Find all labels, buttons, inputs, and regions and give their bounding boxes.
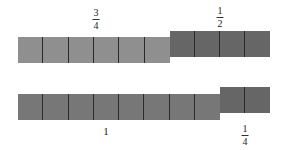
bar-cell (43, 37, 68, 63)
bar-cell (69, 37, 94, 63)
bar-cell (43, 94, 68, 120)
denominator: 4 (243, 137, 248, 147)
bar-cell (195, 94, 220, 120)
bar-cell (18, 94, 43, 120)
top-dark-bar (170, 31, 270, 57)
bar-cell (119, 94, 144, 120)
numerator: 3 (94, 8, 99, 18)
bottom-dark-bar (220, 87, 270, 113)
bar-cell (245, 87, 270, 113)
top-light-bar (18, 37, 170, 63)
bar-cell (170, 94, 195, 120)
bar-cell (94, 94, 119, 120)
bottom-main-bar (18, 94, 220, 120)
label-one: 1 (103, 125, 109, 137)
bar-cell (245, 31, 270, 57)
bar-cell (119, 37, 144, 63)
denominator: 2 (218, 19, 223, 29)
fraction-one-quarter: 1 4 (242, 124, 249, 147)
bar-cell (195, 31, 220, 57)
numerator: 1 (243, 124, 248, 134)
bar-cell (170, 31, 195, 57)
bar-cell (94, 37, 119, 63)
numerator: 1 (218, 6, 223, 16)
bar-cell (220, 87, 245, 113)
fraction-three-quarters: 3 4 (93, 8, 100, 31)
fraction-one-half: 1 2 (217, 6, 224, 29)
denominator: 4 (94, 21, 99, 31)
bar-cell (220, 31, 245, 57)
bar-cell (18, 37, 43, 63)
bar-cell (69, 94, 94, 120)
bar-cell (145, 37, 170, 63)
bar-cell (144, 94, 169, 120)
